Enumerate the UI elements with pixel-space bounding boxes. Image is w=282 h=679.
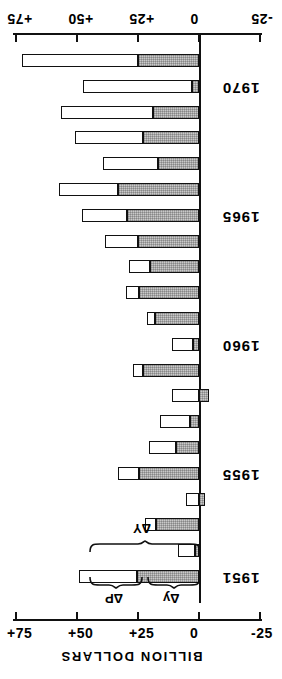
bar-segment-real	[150, 260, 199, 273]
bar-row	[0, 54, 282, 67]
brace-real	[146, 576, 202, 589]
year-label-1951: 1951	[222, 571, 259, 586]
bar-row	[0, 183, 282, 196]
bar-segment-price	[118, 467, 139, 480]
bar-segment-real	[138, 235, 199, 248]
axis-tick-label: -25	[251, 626, 273, 640]
axis-tick	[137, 612, 139, 619]
bar-row	[0, 157, 282, 170]
axis-tick	[15, 35, 17, 42]
bar-row	[0, 364, 282, 377]
brace-total	[88, 540, 202, 553]
bar-segment-real	[190, 415, 199, 428]
annotation-price-label: ΔP	[105, 592, 123, 605]
bar-segment-real	[155, 312, 199, 325]
axis-tick	[259, 612, 261, 619]
brace-price	[88, 576, 144, 589]
bar-chart: +75+50+250-25 +75+50+250-25 195119551960…	[0, 0, 282, 679]
bar-segment-price	[160, 415, 191, 428]
bar-row	[0, 286, 282, 299]
bar-segment-real	[139, 286, 199, 299]
axis-tick-label: +50	[68, 626, 93, 640]
bar-segment-real	[176, 441, 199, 454]
bar-segment-real	[127, 209, 199, 222]
axis-tick	[76, 35, 78, 42]
bar-segment-real	[139, 467, 199, 480]
bar-segment-real	[199, 389, 209, 402]
axis-tick	[198, 612, 200, 619]
axis-tick-label: +25	[129, 626, 154, 640]
bar-row	[0, 312, 282, 325]
axis-tick-label: +75	[7, 626, 32, 640]
bar-row	[0, 106, 282, 119]
bar-segment-price	[82, 209, 127, 222]
bar-segment-real	[118, 183, 199, 196]
bottom-axis-line	[13, 619, 262, 621]
axis-tick	[198, 35, 200, 42]
bar-segment-price	[75, 131, 143, 144]
bar-segment-real	[192, 80, 199, 93]
axis-tick-label: 0	[190, 12, 198, 26]
year-label-1960: 1960	[222, 339, 259, 354]
bar-segment-real	[138, 54, 199, 67]
bar-segment-price	[133, 364, 143, 377]
axis-tick-label: -25	[251, 12, 273, 26]
bar-row	[0, 415, 282, 428]
bar-segment-price	[149, 441, 176, 454]
bar-segment-price	[172, 338, 193, 351]
bar-segment-real	[193, 338, 199, 351]
bar-segment-real	[153, 106, 199, 119]
axis-tick	[76, 612, 78, 619]
annotation-real-label: Δy	[163, 592, 180, 605]
bar-segment-price	[186, 493, 199, 506]
bar-segment-price	[59, 183, 119, 196]
bar-segment-price	[105, 235, 138, 248]
bar-segment-price	[22, 54, 138, 67]
bar-segment-real	[158, 157, 199, 170]
annotation-total-label: ΔY	[133, 522, 151, 535]
bar-segment-real	[143, 131, 199, 144]
bar-segment-price	[83, 80, 192, 93]
bar-row	[0, 235, 282, 248]
bar-segment-price	[103, 157, 158, 170]
bar-segment-price	[147, 312, 156, 325]
axis-tick	[137, 35, 139, 42]
year-label-1955: 1955	[222, 468, 259, 483]
bar-row	[0, 260, 282, 273]
axis-tick-label: 0	[190, 626, 198, 640]
bar-segment-price	[126, 286, 139, 299]
axis-tick-label: +25	[129, 12, 154, 26]
bar-row	[0, 493, 282, 506]
axis-title: BILLION DOLLARS	[60, 650, 202, 663]
year-label-1970: 1970	[222, 81, 259, 96]
bar-segment-real	[156, 518, 199, 531]
axis-tick-label: +50	[68, 12, 93, 26]
bar-segment-real	[199, 493, 205, 506]
bar-segment-price	[61, 106, 153, 119]
bar-segment-real	[143, 364, 199, 377]
bar-segment-price	[129, 260, 150, 273]
bar-row	[0, 389, 282, 402]
bar-segment-price	[172, 389, 199, 402]
axis-tick-label: +75	[7, 12, 32, 26]
axis-tick	[259, 35, 261, 42]
year-label-1965: 1965	[222, 210, 259, 225]
bar-row	[0, 441, 282, 454]
axis-tick	[15, 612, 17, 619]
bar-row	[0, 131, 282, 144]
